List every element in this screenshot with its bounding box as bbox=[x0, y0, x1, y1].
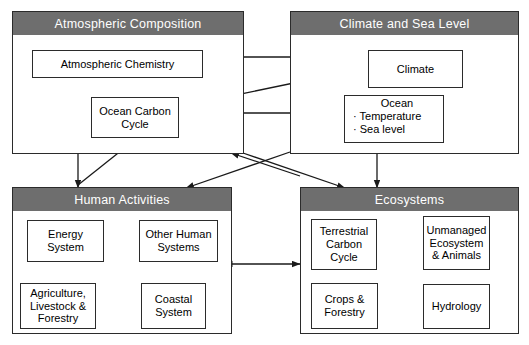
node-label-terrestrial-line3: Cycle bbox=[330, 251, 358, 264]
node-label-ocean: Ocean bbox=[353, 97, 441, 110]
panel-title-atmospheric-composition: Atmospheric Composition bbox=[54, 17, 201, 31]
node-label-other-human-systems-line2: Systems bbox=[157, 241, 199, 254]
node-label-unmanaged-line1: Unmanaged bbox=[427, 224, 487, 237]
node-label-hydrology: Hydrology bbox=[432, 300, 482, 313]
panel-title-climate-and-sea-level: Climate and Sea Level bbox=[340, 17, 470, 31]
panel-header-climate-and-sea-level: Climate and Sea Level bbox=[291, 12, 518, 35]
node-ocean[interactable]: Ocean · Temperature · Sea level bbox=[344, 95, 444, 143]
node-label-unmanaged-line3: & Animals bbox=[432, 249, 481, 262]
node-ocean-carbon-cycle[interactable]: Ocean Carbon Cycle bbox=[91, 97, 179, 138]
arrow-climate-sea-level-to-human-activities bbox=[186, 152, 290, 188]
node-label-coastal-system-line2: System bbox=[155, 306, 192, 319]
node-unmanaged-ecosystem-animals[interactable]: Unmanaged Ecosystem & Animals bbox=[423, 216, 490, 270]
panel-header-ecosystems: Ecosystems bbox=[301, 188, 518, 211]
panel-ecosystems[interactable]: Ecosystems Terrestrial Carbon Cycle Unma… bbox=[300, 187, 519, 334]
node-agriculture-livestock-forestry[interactable]: Agriculture, Livestock & Forestry bbox=[20, 283, 96, 329]
arrow-atmospheric-composition-to-ecosystems bbox=[243, 153, 345, 188]
node-label-crops-forestry-line1: Crops & bbox=[325, 293, 365, 306]
node-label-ocean-carbon-cycle-line1: Ocean Carbon bbox=[99, 105, 171, 118]
node-label-coastal-system-line1: Coastal bbox=[155, 293, 192, 306]
node-label-terrestrial-line2: Carbon bbox=[326, 238, 362, 251]
node-label-energy-system-line1: Energy bbox=[48, 228, 83, 241]
panel-title-ecosystems: Ecosystems bbox=[375, 193, 444, 207]
panel-header-human-activities: Human Activities bbox=[13, 188, 231, 211]
panel-human-activities[interactable]: Human Activities Energy System Other Hum… bbox=[12, 187, 232, 334]
panel-atmospheric-composition[interactable]: Atmospheric Composition Atmospheric Chem… bbox=[12, 11, 244, 154]
node-coastal-system[interactable]: Coastal System bbox=[141, 283, 206, 329]
node-terrestrial-carbon-cycle[interactable]: Terrestrial Carbon Cycle bbox=[311, 219, 377, 270]
node-label-unmanaged-line2: Ecosystem bbox=[430, 237, 484, 250]
system-interaction-diagram: Atmospheric Composition Atmospheric Chem… bbox=[0, 0, 529, 345]
node-label-terrestrial-line1: Terrestrial bbox=[320, 225, 368, 238]
node-energy-system[interactable]: Energy System bbox=[27, 220, 104, 262]
node-hydrology[interactable]: Hydrology bbox=[423, 284, 490, 329]
panel-title-human-activities: Human Activities bbox=[74, 193, 170, 207]
node-label-agriculture-line2: Livestock & bbox=[30, 300, 86, 313]
node-label-atmospheric-chemistry: Atmospheric Chemistry bbox=[61, 58, 175, 71]
node-label-ocean-bullet-sea-level: · Sea level bbox=[353, 123, 405, 136]
node-other-human-systems[interactable]: Other Human Systems bbox=[139, 220, 218, 262]
node-atmospheric-chemistry[interactable]: Atmospheric Chemistry bbox=[32, 50, 203, 78]
node-crops-forestry[interactable]: Crops & Forestry bbox=[311, 283, 378, 329]
node-label-ocean-carbon-cycle-line2: Cycle bbox=[121, 118, 149, 131]
node-label-other-human-systems-line1: Other Human bbox=[145, 228, 211, 241]
panel-header-atmospheric-composition: Atmospheric Composition bbox=[13, 12, 243, 35]
node-label-agriculture-line1: Agriculture, bbox=[30, 287, 86, 300]
node-label-energy-system-line2: System bbox=[47, 241, 84, 254]
node-label-crops-forestry-line2: Forestry bbox=[324, 306, 364, 319]
node-label-climate: Climate bbox=[397, 63, 434, 76]
node-climate[interactable]: Climate bbox=[368, 50, 463, 88]
panel-climate-and-sea-level[interactable]: Climate and Sea Level Climate Ocean · Te… bbox=[290, 11, 519, 154]
arrow-ecosystems-to-atmospheric-composition bbox=[231, 153, 300, 176]
node-label-agriculture-line3: Forestry bbox=[38, 312, 78, 325]
node-label-ocean-bullet-temperature: · Temperature bbox=[353, 110, 421, 123]
